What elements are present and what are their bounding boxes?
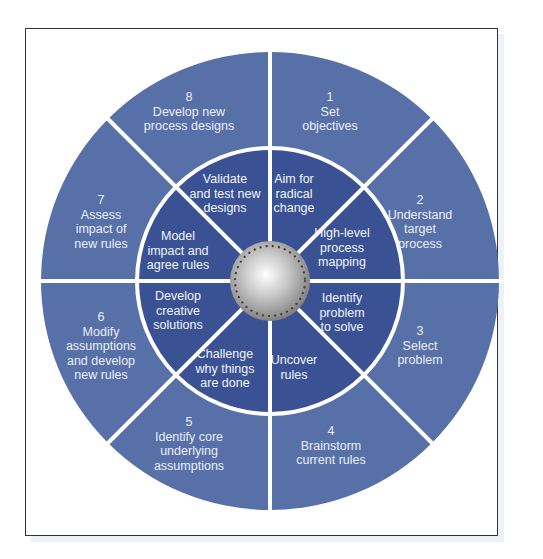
inner-step-validate: Validate and test new designs <box>190 172 261 216</box>
outer-step-4: 4 Brainstorm current rules <box>296 424 365 468</box>
outer-step-6: 6 Modify assumptions and develop new rul… <box>66 310 136 383</box>
inner-step-identify-problem: Identify problem to solve <box>319 291 364 335</box>
inner-step-aim: Aim for radical change <box>273 172 314 216</box>
outer-step-7: 7 Assess impact of new rules <box>74 193 128 251</box>
outer-step-5: 5 Identify core underlying assumptions <box>154 415 224 473</box>
inner-step-develop-creative: Develop creative solutions <box>153 289 202 333</box>
hub-icon <box>230 241 310 321</box>
inner-step-uncover: Uncover rules <box>271 353 318 382</box>
outer-step-8: 8 Develop new process designs <box>144 90 234 134</box>
outer-step-2: 2 Understand target process <box>388 193 453 251</box>
inner-step-mapping: High-level process mapping <box>314 226 370 270</box>
outer-step-1: 1 Set objectives <box>302 90 358 134</box>
inner-step-model-impact: Model impact and agree rules <box>147 229 210 273</box>
process-wheel <box>0 0 543 559</box>
inner-step-challenge: Challenge why things are done <box>195 347 254 391</box>
outer-step-3: 3 Select problem <box>397 324 442 368</box>
